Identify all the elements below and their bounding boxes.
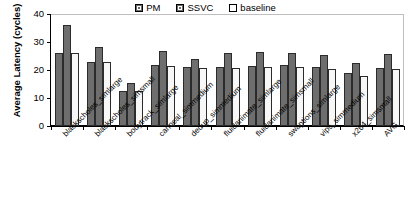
bar-ssvc [63,25,71,126]
y-tick-mark [47,14,50,15]
filled-square-icon [135,4,143,12]
filled-square-icon [176,4,184,12]
bar-ssvc [95,47,103,126]
bar-ssvc [288,53,296,126]
legend-label-pm: PM [146,3,160,13]
bar-ssvc [384,54,392,126]
legend-label-baseline: baseline [240,3,275,13]
x-axis-labels: blackscholes_simlargeblackscholes_simsma… [0,130,411,213]
y-tick-mark [47,98,50,99]
y-tick-mark [47,42,50,43]
chart-legend: PM SSVC baseline [0,1,411,15]
y-tick-label: 30 [14,37,44,46]
legend-item-pm: PM [135,3,160,13]
y-tick-label: 0 [14,121,44,130]
bar-chart: PM SSVC baseline Average Latency (cycles… [0,0,411,213]
y-tick-label: 20 [14,65,44,74]
legend-item-ssvc: SSVC [176,3,213,13]
bar-ssvc [256,52,264,126]
empty-square-icon [229,4,237,12]
bar-group [51,14,83,126]
y-tick-mark [47,70,50,71]
legend-label-ssvc: SSVC [187,3,213,13]
y-tick-label: 40 [14,9,44,18]
y-axis-title: Average Latency (cycles) [11,1,22,121]
bar-pm [55,53,63,126]
y-tick-mark [47,126,50,127]
bar-pm [216,67,224,126]
bar-baseline [392,69,400,126]
bar-pm [183,67,191,126]
bar-ssvc [159,51,167,126]
y-tick-label: 10 [14,93,44,102]
legend-item-baseline: baseline [229,3,275,13]
